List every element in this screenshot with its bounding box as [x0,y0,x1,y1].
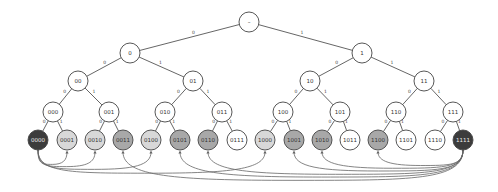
node-0111: 0111 [227,130,247,150]
transition-arcs [38,150,463,180]
edge-label-0: 0 [212,119,215,124]
arc-1111-to-1100 [378,150,463,166]
node-label: 011 [217,109,228,115]
edge-label-1: 1 [300,30,303,35]
edge-label-0: 0 [63,89,66,94]
node-label: 0110 [201,137,215,143]
node-11: 11 [414,71,434,91]
node-label: 0001 [60,137,74,143]
node-label: 0000 [31,137,45,143]
node-010: 010 [155,102,175,122]
node-label: 00 [75,78,82,84]
node-110: 110 [386,102,406,122]
node-0110: 0110 [198,130,218,150]
edge-label-0: 0 [103,60,106,65]
node-label: 0 [128,50,132,56]
edge-label-0: 0 [335,60,338,65]
edge-label-1: 1 [207,89,210,94]
node-label: 001 [104,109,115,115]
edge-label-1: 1 [438,89,441,94]
node-0000: 0000 [28,130,48,150]
node-001: 001 [99,102,119,122]
node-label: 0100 [144,137,158,143]
edge-label-0: 0 [177,89,180,94]
node-label: 1000 [258,137,272,143]
edge-label-0: 0 [155,119,158,124]
node-0101: 0101 [170,130,190,150]
node-label: 1101 [399,137,413,143]
tree-edge [259,25,353,51]
node-1100: 1100 [368,130,388,150]
arc-0000-to-1000 [38,150,265,173]
node-0011: 0011 [113,130,133,150]
node-01: 01 [183,71,203,91]
node-root: – [239,12,259,32]
node-1101: 1101 [396,130,416,150]
node-label: 0101 [173,137,187,143]
node-label: 0011 [116,137,130,143]
node-label: 10 [307,78,314,84]
node-111: 111 [443,102,463,122]
node-1111: 1111 [453,130,473,150]
node-label: – [248,19,251,25]
edge-label-1: 1 [93,89,96,94]
node-1001: 1001 [284,130,304,150]
tree-edge [140,25,240,51]
node-00: 00 [68,71,88,91]
node-000: 000 [43,102,63,122]
edge-label-1: 1 [172,119,175,124]
node-label: 100 [278,109,289,115]
node-label: 111 [448,109,459,115]
edge-label-0: 0 [271,119,274,124]
arc-1111-to-1010 [322,150,463,168]
edge-label-0: 0 [294,89,297,94]
edge-label-0: 0 [384,119,387,124]
node-label: 1111 [456,137,470,143]
node-label: 1110 [428,137,442,143]
node-label: 1100 [371,137,385,143]
edge-label-1: 1 [324,89,327,94]
node-1000: 1000 [255,130,275,150]
node-100: 100 [273,102,293,122]
node-label: 11 [421,78,428,84]
node-label: 1001 [287,137,301,143]
edge-label-0: 0 [43,119,46,124]
node-10: 10 [300,71,320,91]
node-1: 1 [352,43,372,63]
edge-label-0: 0 [441,119,444,124]
node-1010: 1010 [312,130,332,150]
node-0100: 0100 [141,130,161,150]
node-0: 0 [120,43,140,63]
node-label: 1 [360,50,364,56]
node-label: 110 [391,109,402,115]
node-label: 000 [48,109,59,115]
node-label: 0111 [230,137,244,143]
edge-label-0: 0 [408,89,411,94]
edge-label-1: 1 [159,60,162,65]
node-0001: 0001 [57,130,77,150]
node-1011: 1011 [340,130,360,150]
node-label: 0010 [88,137,102,143]
edge-label-0: 0 [99,119,102,124]
tree-nodes: –010001101100000101001110010111011100000… [28,12,473,150]
arc-1111-to-0110 [208,150,463,174]
edge-label-1: 1 [60,119,63,124]
edge-label-1: 1 [390,60,393,65]
node-label: 1010 [315,137,329,143]
node-label: 01 [190,78,197,84]
binary-tree-diagram: 010101010101010101010101010101 –01000110… [0,0,498,192]
edge-label-0: 0 [192,30,195,35]
edge-label-1: 1 [116,119,119,124]
node-101: 101 [330,102,350,122]
node-1110: 1110 [425,130,445,150]
node-0010: 0010 [85,130,105,150]
edge-label-0: 0 [328,119,331,124]
node-011: 011 [212,102,232,122]
node-label: 1011 [343,137,357,143]
node-label: 101 [335,109,346,115]
node-label: 010 [160,109,171,115]
edge-label-1: 1 [229,119,232,124]
